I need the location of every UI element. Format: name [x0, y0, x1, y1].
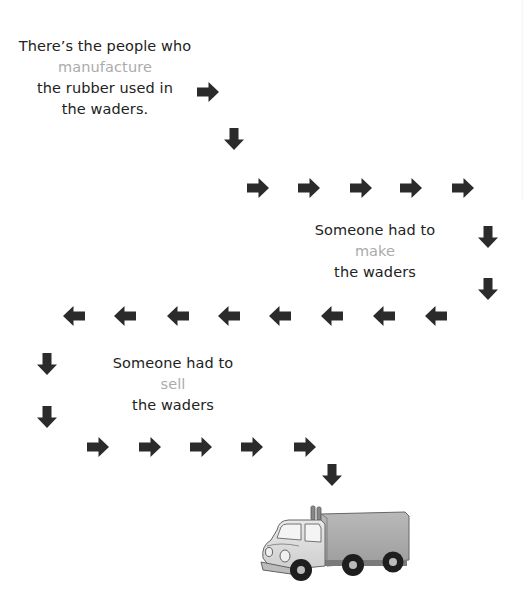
delivery-truck-icon: [255, 500, 420, 585]
arrow-right-icon: [399, 176, 423, 200]
step-1-line-3: the rubber used in: [8, 78, 202, 99]
arrow-right-icon: [293, 435, 317, 459]
step-sell-text: Someone had to sell the waders: [103, 353, 243, 416]
arrow-down-icon: [320, 463, 344, 487]
step-make-text: Someone had to make the waders: [305, 220, 445, 283]
step-1-line-4: the waders.: [8, 99, 202, 120]
arrow-down-icon: [476, 225, 500, 249]
arrow-right-icon: [196, 80, 220, 104]
arrow-right-icon: [297, 176, 321, 200]
arrow-left-icon: [372, 304, 396, 328]
arrow-left-icon: [62, 304, 86, 328]
arrow-right-icon: [86, 435, 110, 459]
arrow-right-icon: [349, 176, 373, 200]
arrow-right-icon: [138, 435, 162, 459]
arrow-down-icon: [35, 405, 59, 429]
arrow-left-icon: [166, 304, 190, 328]
step-3-highlight: sell: [103, 374, 243, 395]
arrow-left-icon: [320, 304, 344, 328]
step-1-line-1: There’s the people who: [8, 36, 202, 57]
step-2-line-3: the waders: [305, 262, 445, 283]
step-3-line-1: Someone had to: [103, 353, 243, 374]
arrow-right-icon: [246, 176, 270, 200]
step-manufacture-text: There’s the people who manufacture the r…: [8, 36, 202, 120]
step-3-line-3: the waders: [103, 395, 243, 416]
arrow-down-icon: [35, 352, 59, 376]
step-2-highlight: make: [305, 241, 445, 262]
arrow-left-icon: [217, 304, 241, 328]
arrow-right-icon: [189, 435, 213, 459]
step-1-highlight: manufacture: [8, 57, 202, 78]
arrow-down-icon: [222, 127, 246, 151]
arrow-left-icon: [113, 304, 137, 328]
arrow-right-icon: [451, 176, 475, 200]
arrow-left-icon: [268, 304, 292, 328]
arrow-right-icon: [240, 435, 264, 459]
step-2-line-1: Someone had to: [305, 220, 445, 241]
arrow-down-icon: [476, 277, 500, 301]
arrow-left-icon: [424, 304, 448, 328]
